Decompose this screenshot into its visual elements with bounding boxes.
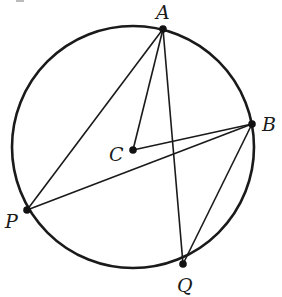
- segment-bq: [183, 124, 252, 264]
- segment-ap: [27, 29, 163, 210]
- caption-fragment: [16, 0, 24, 2]
- label-point-p: P: [4, 210, 19, 232]
- point-c: [129, 146, 137, 154]
- label-point-b: B: [261, 113, 276, 135]
- point-a: [159, 25, 167, 33]
- point-q: [179, 260, 187, 268]
- segments-group: [27, 29, 252, 264]
- label-point-q: Q: [177, 274, 193, 296]
- label-point-c: C: [109, 143, 124, 165]
- segment-ac: [133, 29, 163, 150]
- segment-aq: [163, 29, 183, 264]
- label-point-a: A: [154, 1, 170, 23]
- point-p: [23, 206, 31, 214]
- point-b: [248, 120, 256, 128]
- circle-diagram: ABCPQ: [0, 0, 282, 297]
- segment-pb: [27, 124, 252, 210]
